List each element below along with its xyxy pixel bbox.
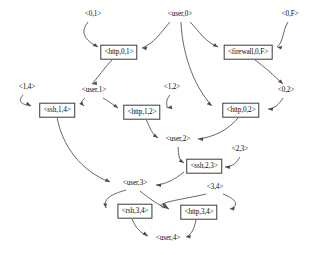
node-fact-3-4[interactable]: <3,4>: [207, 184, 224, 191]
edge-user-0-to-http-0-1: [142, 22, 170, 48]
edge-http-1-2-to-user-2: [146, 119, 158, 138]
node-fact-2-3[interactable]: <2,3>: [232, 146, 249, 153]
arrow-head: [268, 107, 273, 111]
arrow-head: [198, 137, 203, 141]
node-rule-rsh-3-4[interactable]: <rsh,3,4>: [117, 204, 152, 219]
node-fact-user-1[interactable]: <user,1>: [82, 87, 106, 94]
edge-user-0-to-firewall: [190, 22, 218, 47]
node-fact-user-4[interactable]: <user,4>: [156, 235, 180, 242]
node-fact-1-4[interactable]: <1,4>: [19, 84, 36, 91]
arrow-head: [113, 104, 118, 108]
edge-3-4-to-http-3-4: [223, 194, 236, 209]
arrow-head: [167, 105, 172, 109]
edge-0-2-to-http-0-2: [268, 98, 283, 109]
node-fact-0-1[interactable]: <0,1>: [85, 11, 102, 18]
node-rule-http-1-2[interactable]: <http,1,2>: [123, 105, 160, 120]
arrow-head: [156, 183, 161, 187]
arrow-head: [103, 203, 107, 208]
node-rule-firewall-0-F[interactable]: <firewall,0,F>: [224, 45, 273, 60]
edge-firewall-to-0-2: [255, 60, 283, 84]
edge-ssh-2-3-to-user-3: [156, 172, 184, 185]
edge-1-2-to-http-1-2: [167, 95, 170, 108]
edge-user-0-to-http-0-2: [181, 22, 212, 106]
edge-http-0-1-to-user-1: [92, 59, 113, 84]
node-fact-0-2[interactable]: <0,2>: [278, 87, 295, 94]
attack-graph-canvas: <0,1> <user,0> <0,F> <http,0,1> <firewal…: [0, 0, 311, 255]
arrow-head: [225, 165, 230, 169]
node-fact-1-2[interactable]: <1,2>: [164, 84, 181, 91]
node-rule-http-3-4[interactable]: <http,3,4>: [180, 205, 217, 220]
node-fact-user-3[interactable]: <user,3>: [123, 180, 147, 187]
edge-0-1-to-http-0-1: [84, 22, 98, 47]
edge-0-F-to-firewall: [277, 22, 288, 47]
node-fact-user-0[interactable]: <user,0>: [168, 11, 192, 18]
edge-2-3-to-ssh-2-3: [225, 157, 240, 167]
edge-layer: [0, 0, 311, 255]
node-rule-ssh-1-4[interactable]: <ssh,1,4>: [39, 103, 75, 118]
node-rule-http-0-2[interactable]: <http,0,2>: [222, 103, 259, 118]
arrow-head: [93, 43, 98, 47]
node-fact-0-F[interactable]: <0,F>: [282, 11, 299, 18]
node-rule-ssh-2-3[interactable]: <ssh,2,3>: [186, 159, 222, 174]
arrow-head: [79, 102, 84, 106]
arrow-head: [143, 232, 148, 236]
edge-http-3-4-to-user-4: [186, 220, 196, 237]
node-rule-http-0-1[interactable]: <http,0,1>: [100, 45, 137, 60]
edge-ssh-1-4-to-user-3: [57, 117, 110, 182]
edge-http-0-2-to-user-2: [198, 118, 238, 139]
node-fact-user-2[interactable]: <user,2>: [166, 136, 190, 143]
arrow-head: [207, 102, 212, 106]
